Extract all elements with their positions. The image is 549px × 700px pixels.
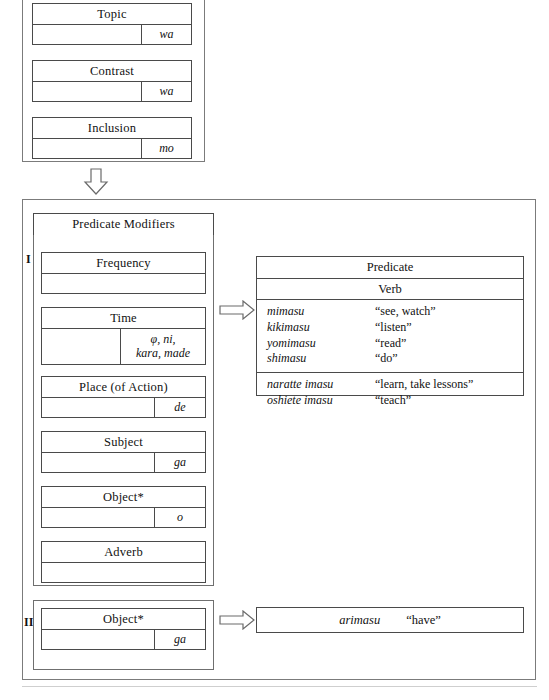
predicate-strip-gloss: “have”: [406, 613, 441, 628]
slot-frequency[interactable]: Frequency: [41, 252, 206, 294]
predicate-gloss: “teach”: [375, 393, 523, 409]
slot-object-one-label: Object*: [42, 487, 205, 508]
predicate-entry: naratte imasu “learn, take lessons”: [257, 377, 523, 393]
predicate-table-subheader: Verb: [257, 279, 523, 300]
slot-adverb-body: [42, 563, 205, 582]
slot-subject-particle: ga: [155, 453, 205, 472]
slot-inclusion-body: mo: [33, 139, 191, 158]
predicate-term: naratte imasu: [267, 377, 375, 393]
slot-object-two[interactable]: Object* ga: [41, 608, 206, 650]
slot-inclusion-blank[interactable]: [33, 139, 142, 158]
slot-place-body: de: [42, 398, 205, 417]
slot-inclusion-label: Inclusion: [33, 118, 191, 139]
slot-object-one-blank[interactable]: [42, 508, 155, 527]
predicate-gloss: “learn, take lessons”: [375, 377, 523, 393]
predicate-entry: kikimasu “listen”: [257, 320, 523, 336]
slot-topic-blank[interactable]: [33, 25, 142, 44]
scan-artifact-line: [22, 686, 537, 687]
right-arrow-pattern-two: [219, 610, 255, 630]
predicate-term: kikimasu: [267, 320, 375, 336]
slot-topic-particle: wa: [142, 25, 191, 44]
pattern-one-numeral: I: [26, 253, 31, 265]
slot-topic-label: Topic: [33, 4, 191, 25]
predicate-entry: shimasu “do”: [257, 351, 523, 367]
slot-subject[interactable]: Subject ga: [41, 431, 206, 473]
slot-place-particle: de: [155, 398, 205, 417]
slot-topic[interactable]: Topic wa: [32, 3, 192, 45]
slot-time[interactable]: Time φ, ni, kara, made: [41, 307, 206, 365]
predicate-entry: oshiete imasu “teach”: [257, 393, 523, 409]
predicate-gloss: “listen”: [375, 320, 523, 336]
slot-place-blank[interactable]: [42, 398, 155, 417]
slot-object-one[interactable]: Object* o: [41, 486, 206, 528]
right-arrow-pattern-one: [219, 300, 255, 320]
predicate-modifiers-header-box: Predicate Modifiers: [33, 213, 214, 235]
slot-adverb[interactable]: Adverb: [41, 541, 206, 583]
slot-adverb-label: Adverb: [42, 542, 205, 563]
slot-object-two-particle: ga: [155, 630, 205, 649]
predicate-gloss: “do”: [375, 351, 523, 367]
predicate-table-header: Predicate: [257, 257, 523, 279]
slot-frequency-blank[interactable]: [42, 274, 207, 293]
slot-subject-blank[interactable]: [42, 453, 155, 472]
predicate-strip-arimasu: arimasu “have”: [256, 607, 524, 633]
predicate-modifiers-label: Predicate Modifiers: [34, 214, 213, 235]
slot-time-blank[interactable]: [42, 329, 121, 364]
slot-place-label: Place (of Action): [42, 377, 205, 398]
slot-time-label: Time: [42, 308, 205, 329]
slot-object-two-body: ga: [42, 630, 205, 649]
slot-time-body: φ, ni, kara, made: [42, 329, 205, 364]
slot-contrast-blank[interactable]: [33, 82, 142, 101]
predicate-term: mimasu: [267, 304, 375, 320]
slot-contrast-particle: wa: [142, 82, 191, 101]
slot-contrast-label: Contrast: [33, 61, 191, 82]
predicate-table: Predicate Verb mimasu “see, watch” kikim…: [256, 256, 524, 396]
predicate-term: shimasu: [267, 351, 375, 367]
predicate-strip-term: arimasu: [339, 613, 380, 628]
predicate-verb-group-one: mimasu “see, watch” kikimasu “listen” yo…: [257, 300, 523, 372]
slot-object-one-particle: o: [155, 508, 205, 527]
slot-frequency-label: Frequency: [42, 253, 205, 274]
slot-topic-body: wa: [33, 25, 191, 44]
down-arrow: [83, 168, 109, 196]
slot-subject-body: ga: [42, 453, 205, 472]
slot-adverb-blank[interactable]: [42, 563, 207, 582]
slot-inclusion[interactable]: Inclusion mo: [32, 117, 192, 159]
predicate-verb-group-two: naratte imasu “learn, take lessons” oshi…: [257, 372, 523, 414]
slot-contrast[interactable]: Contrast wa: [32, 60, 192, 102]
diagram-canvas: Topic wa Contrast wa Inclusion mo I Pred…: [0, 0, 549, 700]
slot-object-two-blank[interactable]: [42, 630, 155, 649]
slot-contrast-body: wa: [33, 82, 191, 101]
predicate-entry: mimasu “see, watch”: [257, 304, 523, 320]
predicate-term: oshiete imasu: [267, 393, 375, 409]
slot-object-one-body: o: [42, 508, 205, 527]
pattern-two-numeral: II: [24, 616, 33, 628]
slot-inclusion-particle: mo: [142, 139, 191, 158]
predicate-gloss: “see, watch”: [375, 304, 523, 320]
slot-place[interactable]: Place (of Action) de: [41, 376, 206, 418]
slot-subject-label: Subject: [42, 432, 205, 453]
slot-object-two-label: Object*: [42, 609, 205, 630]
predicate-term: yomimasu: [267, 336, 375, 352]
slot-frequency-body: [42, 274, 205, 293]
slot-time-particle: φ, ni, kara, made: [121, 329, 205, 364]
predicate-gloss: “read”: [375, 336, 523, 352]
predicate-entry: yomimasu “read”: [257, 336, 523, 352]
